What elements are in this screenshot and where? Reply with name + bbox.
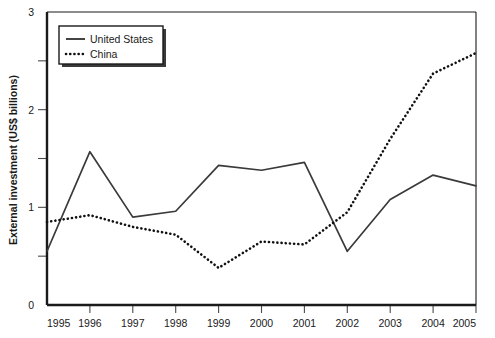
line-chart: External investment (US$ billions) 0123 … — [0, 0, 495, 338]
y-axis-title-label: External investment (US$ billions) — [7, 75, 19, 245]
x-tick-label-2000: 2000 — [250, 317, 274, 329]
y-tick-label-3: 3 — [28, 6, 34, 18]
y-tick-label-0: 0 — [28, 299, 34, 311]
y-tick-label-1: 1 — [28, 201, 34, 213]
y-tick-label-2: 2 — [28, 104, 34, 116]
x-tick-label-2005: 2005 — [453, 317, 477, 329]
x-tick-label-1995: 1995 — [47, 317, 71, 329]
x-tick-label-2003: 2003 — [379, 317, 403, 329]
x-tick-label-2001: 2001 — [293, 317, 317, 329]
y-axis-ticks: 0123 — [28, 6, 47, 311]
y-axis-title: External investment (US$ billions) — [7, 75, 19, 245]
series-line-united-states — [47, 152, 476, 252]
series-line-china — [47, 53, 476, 268]
chart-container: External investment (US$ billions) 0123 … — [0, 0, 495, 338]
chart-legend: United States China — [59, 26, 166, 67]
x-tick-label-1998: 1998 — [164, 317, 188, 329]
x-tick-label-2002: 2002 — [336, 317, 360, 329]
x-axis-ticks: 1995199619971998199920002001200220032004… — [47, 305, 476, 329]
x-tick-label-1997: 1997 — [121, 317, 145, 329]
x-tick-label-1996: 1996 — [78, 317, 102, 329]
legend-label-china: China — [90, 48, 118, 60]
data-series-group — [47, 53, 476, 268]
x-tick-label-2004: 2004 — [421, 317, 445, 329]
legend-label-united-states: United States — [90, 33, 153, 45]
x-tick-label-1999: 1999 — [207, 317, 231, 329]
